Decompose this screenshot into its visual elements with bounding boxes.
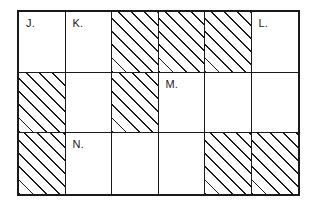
cell-label: M. — [166, 78, 179, 91]
grid-cell-r3-c1 — [19, 133, 66, 194]
cell-label: J. — [26, 17, 35, 30]
cell-label: K. — [73, 17, 84, 30]
grid-cell-r2-c5 — [205, 73, 252, 134]
grid-cell-r3-c6 — [252, 133, 299, 194]
grid-cell-r2-c6 — [252, 73, 299, 134]
grid-cell-r2-c2 — [66, 73, 113, 134]
grid-cell-r1-c3 — [112, 12, 159, 73]
diagram-canvas: J.K.L.M.N. — [0, 0, 315, 211]
grid-cell-r1-c2: K. — [66, 12, 113, 73]
grid-cell-r3-c2: N. — [66, 133, 113, 194]
grid-cell-r1-c1: J. — [19, 12, 66, 73]
grid-cell-r3-c5 — [205, 133, 252, 194]
grid-cell-r3-c3 — [112, 133, 159, 194]
grid-cell-r2-c4: M. — [159, 73, 206, 134]
grid-frame: J.K.L.M.N. — [17, 10, 300, 196]
grid-cell-r1-c5 — [205, 12, 252, 73]
grid-cell-r3-c4 — [159, 133, 206, 194]
grid-table: J.K.L.M.N. — [19, 12, 298, 194]
grid-cell-r1-c6: L. — [252, 12, 299, 73]
cell-label: N. — [73, 138, 84, 151]
cell-label: L. — [259, 17, 269, 30]
grid-cell-r2-c3 — [112, 73, 159, 134]
grid-cell-r1-c4 — [159, 12, 206, 73]
grid-cell-r2-c1 — [19, 73, 66, 134]
